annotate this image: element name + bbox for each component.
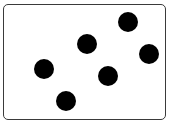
dot-1: [34, 59, 54, 79]
dot-2: [56, 91, 76, 111]
dot-4: [98, 66, 118, 86]
dot-6: [139, 44, 159, 64]
dot-card-frame: [3, 4, 166, 120]
dot-5: [118, 12, 138, 32]
dot-3: [77, 34, 97, 54]
